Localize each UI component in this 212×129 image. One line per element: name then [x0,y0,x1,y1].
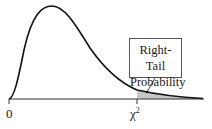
chi-square-label: χ2 [130,107,140,120]
callout-line2: Probability [130,74,181,90]
callout-pointer-dot [146,91,148,93]
superscript-two: 2 [136,106,140,115]
x-origin-label: 0 [6,107,13,120]
right-tail-probability-callout: Right-Tail Probability [129,38,182,78]
callout-line1: Right-Tail [130,42,181,74]
